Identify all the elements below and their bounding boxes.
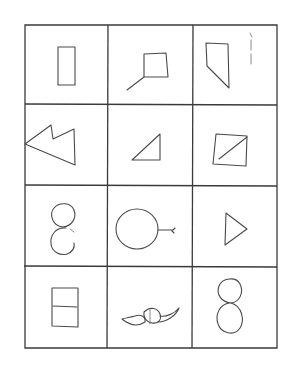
cell-0-0-tall-rectangle bbox=[58, 47, 75, 85]
cell-1-0-double-arrow bbox=[25, 125, 75, 165]
cell-1-2-square-with-diagonal bbox=[213, 134, 247, 166]
grid-lines bbox=[24, 25, 277, 348]
cell-3-0-divided-rectangle bbox=[52, 288, 78, 327]
sketch-grid bbox=[0, 0, 295, 372]
cell-0-1-square-with-tail bbox=[127, 53, 168, 90]
cell-2-2-triangle-right bbox=[225, 213, 247, 245]
cell-1-1-right-triangle bbox=[132, 134, 160, 160]
cell-2-0-open-figure-eight bbox=[51, 204, 75, 255]
cell-0-2-trapezoid-with-mark bbox=[206, 33, 252, 88]
cell-3-1-mustache bbox=[122, 308, 179, 325]
cell-2-1-circle-with-tail bbox=[116, 209, 175, 249]
cell-3-2-figure-eight bbox=[217, 279, 242, 333]
